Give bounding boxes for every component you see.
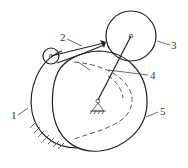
cam-profile-inner-dashed (108, 76, 123, 98)
mechanism-diagram: 1 2 3 4 5 (0, 0, 188, 168)
part-1-fixed-circle (30, 51, 78, 149)
ground-pivot (90, 99, 106, 114)
leader-2 (67, 39, 82, 46)
leader-5 (146, 112, 158, 117)
cam-profile-dashed (74, 62, 132, 139)
label-1: 1 (11, 109, 17, 121)
leader-3 (157, 41, 170, 45)
part-2-roller-link (43, 40, 106, 64)
label-2: 2 (60, 31, 66, 43)
label-4: 4 (150, 69, 156, 81)
label-5: 5 (160, 105, 166, 117)
label-3: 3 (171, 39, 177, 51)
leader-1 (18, 108, 28, 115)
